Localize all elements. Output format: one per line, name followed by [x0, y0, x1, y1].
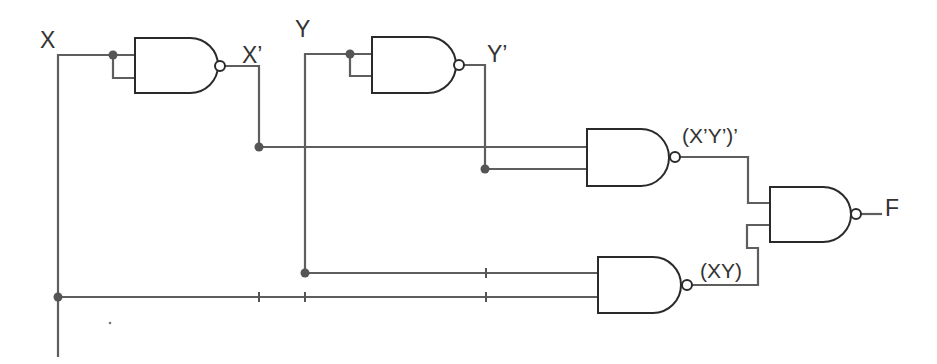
label-xnyn-nand: (X’Y’)’	[682, 124, 738, 147]
nand-gate-x-inverter	[135, 38, 225, 93]
wire-xnyn-nand	[680, 157, 770, 203]
nand-gate-y-inverter	[372, 37, 464, 93]
nand-gate-output-f	[770, 187, 861, 242]
nand-gate-xnyn	[587, 129, 680, 186]
label-xy: (XY)	[700, 259, 742, 282]
label-y-not: Y’	[487, 41, 507, 67]
wire-y-input	[305, 54, 598, 273]
junction-y-gate5	[301, 269, 310, 278]
wire-x-input	[58, 55, 598, 356]
nand-gate-xy	[598, 257, 692, 313]
junction-y-gate2	[346, 50, 355, 59]
stray-dot	[109, 322, 112, 325]
junction-y-not	[481, 165, 490, 174]
junction-x-not	[255, 143, 264, 152]
label-y-input: Y	[295, 16, 310, 42]
junction-x-gate5	[54, 293, 63, 302]
logic-circuit-diagram: X Y X’ Y’ (X’Y’)’ (XY) F	[0, 0, 937, 364]
label-f-output: F	[885, 195, 899, 221]
wire-y-not	[464, 65, 587, 169]
label-x-not: X’	[242, 42, 262, 68]
label-x-input: X	[40, 27, 55, 53]
junction-x-gate1	[109, 51, 118, 60]
